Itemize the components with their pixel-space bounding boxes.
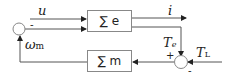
tl-subscript: L <box>205 50 210 59</box>
current-output-label: i <box>168 4 172 17</box>
mechanical-subsystem-block: ∑ m <box>87 50 132 72</box>
electrical-subsystem-block: ∑ e <box>87 10 132 32</box>
right-summing-junction <box>175 56 188 69</box>
electrical-block-label: ∑ e <box>100 14 119 28</box>
tl-symbol: T <box>196 45 205 60</box>
right-junction-plus-sign: + <box>166 51 174 61</box>
omega-symbol: ω <box>25 37 36 52</box>
input-voltage-label: u <box>38 4 46 17</box>
left-junction-minus-sign: - <box>30 20 34 30</box>
right-junction-minus-sign: - <box>188 66 192 76</box>
mechanical-block-label: ∑ m <box>98 54 122 68</box>
load-torque-label: TL <box>196 46 210 59</box>
te-symbol: T <box>163 35 172 50</box>
omega-subscript: m <box>36 41 45 51</box>
block-diagram: ∑ e ∑ m u - i ωm Te + TL - <box>0 0 231 78</box>
speed-feedback-label: ωm <box>25 38 44 51</box>
left-summing-junction <box>13 23 25 35</box>
te-subscript: e <box>172 40 177 49</box>
electromagnetic-torque-label: Te <box>163 36 176 49</box>
